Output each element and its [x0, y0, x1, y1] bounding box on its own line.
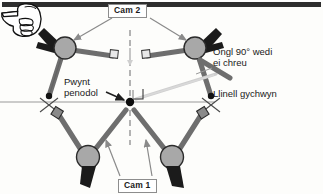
label-pwynt-line2: penodol	[64, 88, 98, 99]
diagram-canvas: Cam 2 Cam 1 Ongl 90° wedi ei chreu Lline…	[0, 0, 323, 194]
pointing-hand-left-icon	[0, 0, 44, 42]
label-ongl-line2: ei chreu	[213, 58, 272, 69]
label-llinell-gychwyn: Llinell gychwyn	[213, 89, 277, 100]
joint-upper-left	[54, 37, 76, 59]
pivot-left	[46, 93, 52, 99]
connector-block-upper-left	[110, 50, 119, 59]
label-cam1: Cam 1	[118, 179, 157, 193]
label-cam2: Cam 2	[108, 4, 147, 18]
centre-point-pwynt-penodol	[126, 98, 134, 106]
joint-upper-right	[184, 37, 206, 59]
label-ongl-90-wedi-ei-chreu: Ongl 90° wedi ei chreu	[213, 47, 272, 69]
connector-block-upper-right	[142, 50, 151, 59]
joint-lower-right	[161, 146, 184, 169]
label-pwynt-penodol: Pwynt penodol	[64, 77, 98, 99]
joint-lower-left	[77, 146, 100, 169]
